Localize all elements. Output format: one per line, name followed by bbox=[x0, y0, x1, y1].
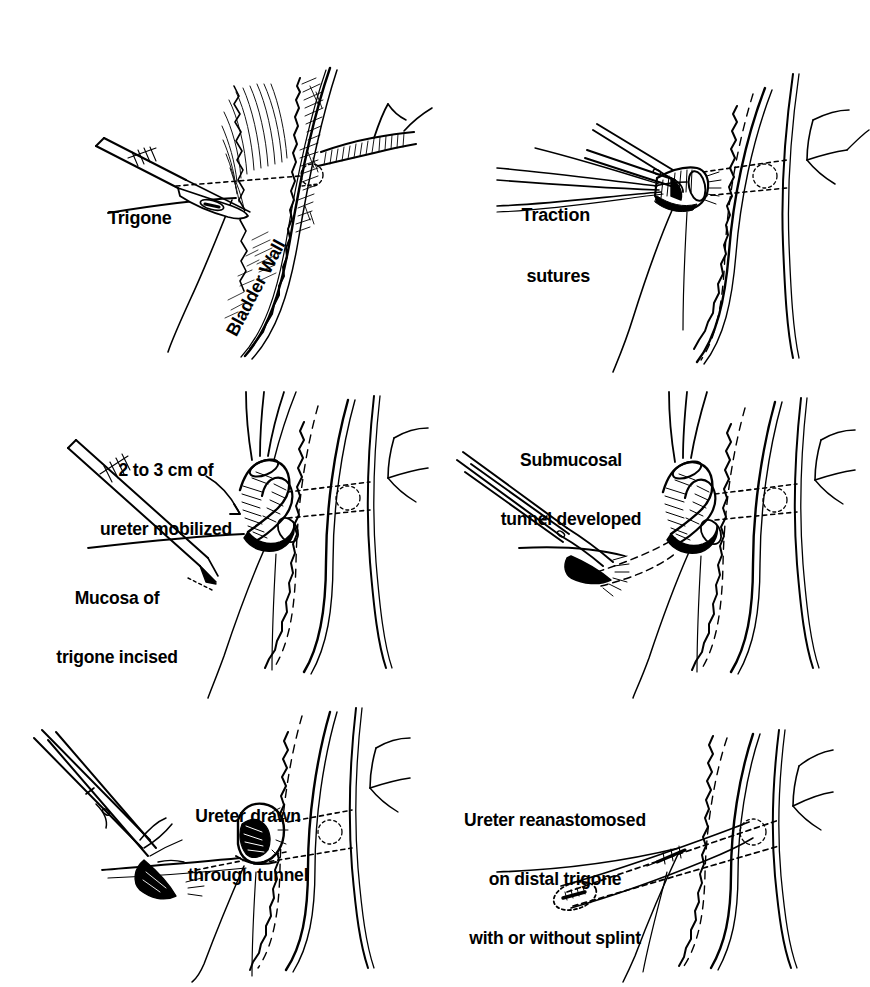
label-ureter-reanastomosed: Ureter reanastomosed on distal trigone w… bbox=[435, 772, 675, 987]
label-ureter-reanastomosed-line3: with or without splint bbox=[435, 929, 675, 949]
panel-5-ureter-through-tunnel: Ureter drawn through tunnel bbox=[0, 700, 435, 982]
panel-1-artwork bbox=[0, 0, 435, 390]
label-ureter-reanastomosed-line2: on distal trigone bbox=[435, 870, 675, 890]
label-ureter-drawn-line2: through tunnel bbox=[178, 866, 318, 886]
label-submucosal-tunnel: Submucosal tunnel developed bbox=[493, 412, 649, 569]
panel-4-submucosal-tunnel: Submucosal tunnel developed bbox=[435, 390, 870, 700]
label-ureter-reanastomosed-line1: Ureter reanastomosed bbox=[435, 811, 675, 831]
panel-6-reanastomosis: Ureter reanastomosed on distal trigone w… bbox=[435, 700, 870, 982]
label-mucosa-incised-line1: Mucosa of bbox=[48, 589, 186, 609]
label-ureter-drawn: Ureter drawn through tunnel bbox=[178, 768, 318, 925]
panel-3-ureter-mobilized: 2 to 3 cm of ureter mobilized Mucosa of … bbox=[0, 390, 435, 700]
label-submucosal-tunnel-line1: Submucosal bbox=[493, 451, 649, 471]
panel-1-trigone-incision: Trigone Bladder Wall bbox=[0, 0, 435, 390]
panel-2-traction-sutures: Traction sutures bbox=[435, 0, 870, 390]
label-mucosa-incised: Mucosa of trigone incised bbox=[48, 550, 186, 707]
label-ureter-drawn-line1: Ureter drawn bbox=[178, 807, 318, 827]
label-ureter-mobilized-line2: ureter mobilized bbox=[96, 520, 236, 540]
label-ureter-mobilized-line1: 2 to 3 cm of bbox=[96, 461, 236, 481]
label-trigone: Trigone bbox=[108, 208, 172, 228]
label-traction-sutures: Traction sutures bbox=[435, 165, 590, 326]
label-mucosa-incised-line2: trigone incised bbox=[48, 648, 186, 668]
label-submucosal-tunnel-line2: tunnel developed bbox=[493, 510, 649, 530]
label-traction-sutures-line1: Traction bbox=[435, 205, 590, 225]
label-traction-sutures-line2: sutures bbox=[435, 266, 590, 286]
